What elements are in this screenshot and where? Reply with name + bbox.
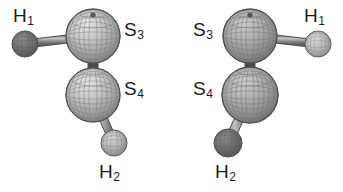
label-h1-right: H1	[304, 6, 324, 25]
atom-h1-sphere	[12, 31, 38, 57]
atom-s3-sphere	[66, 9, 120, 63]
label-h1-right-element: H	[304, 5, 318, 26]
label-s4-left-element: S	[124, 78, 137, 99]
label-s3-right-element: S	[193, 19, 206, 40]
label-h2-left-index: 2	[113, 170, 120, 184]
atom-h2-sphere	[214, 129, 242, 157]
label-h1-left-index: 1	[27, 14, 34, 28]
molecule-right: S3 H1 S4 H2	[171, 0, 343, 192]
label-s3-left-element: S	[124, 19, 137, 40]
atom-s4-sphere	[66, 67, 120, 122]
label-h2-right: H2	[215, 162, 235, 181]
label-h2-left: H2	[99, 162, 119, 181]
label-s3-left: S3	[124, 20, 143, 39]
atom-s3-sphere	[223, 9, 277, 63]
molecular-structure-figure: H1 S3 S4 H2	[0, 0, 343, 192]
label-s4-right-index: 4	[206, 87, 213, 101]
label-s3-right-index: 3	[206, 28, 213, 42]
label-h2-right-element: H	[215, 161, 229, 182]
label-h2-left-element: H	[99, 161, 113, 182]
label-s3-right: S3	[193, 20, 212, 39]
label-h1-left-element: H	[13, 5, 27, 26]
atom-s4-sphere	[222, 67, 278, 123]
label-s4-left: S4	[124, 79, 143, 98]
molecule-left-graphic	[0, 0, 172, 192]
label-h1-left: H1	[13, 6, 33, 25]
label-s3-left-index: 3	[137, 28, 144, 42]
label-s4-left-index: 4	[137, 87, 144, 101]
label-h2-right-index: 2	[229, 170, 236, 184]
label-h1-right-index: 1	[318, 14, 325, 28]
atom-h2-sphere	[101, 130, 127, 156]
label-s4-right-element: S	[193, 78, 206, 99]
molecule-left: H1 S3 S4 H2	[0, 0, 172, 192]
atom-h1-sphere	[305, 31, 331, 57]
label-s4-right: S4	[193, 79, 212, 98]
